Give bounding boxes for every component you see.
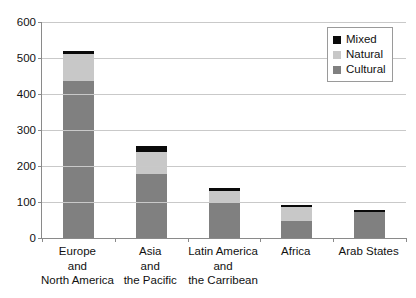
gridline [42,166,406,167]
y-axis-tick [38,166,42,167]
bar-stack [209,188,240,238]
y-axis-tick-label: 300 [0,125,36,136]
category-label-line: the Carribean [168,273,278,288]
y-axis-tick [38,130,42,131]
bar-stack [63,51,94,238]
gridline [42,130,406,131]
x-axis-tick [188,238,189,242]
y-axis-tick [38,202,42,203]
y-axis-tick-label: 400 [0,89,36,100]
bar-segment-natural [281,207,312,221]
y-axis-tick [38,58,42,59]
stacked-bar-chart: 0100200300400500600 EuropeandNorth Ameri… [0,0,416,298]
bar-segment-cultural [63,81,94,238]
gridline [42,94,406,95]
y-axis-tick-label: 0 [0,233,36,244]
bar-segment-cultural [281,221,312,238]
x-axis-category-label: Arab States [314,244,416,259]
x-axis-tick [42,238,43,242]
bar-segment-cultural [209,203,240,238]
legend-label: Cultural [346,64,386,76]
bar-segment-cultural [354,212,385,238]
category-label-line: and [168,259,278,274]
gridline [42,202,406,203]
bar-stack [354,210,385,238]
x-axis-tick [260,238,261,242]
legend-label: Natural [346,49,383,61]
bar-stack [136,146,167,239]
gridline [42,22,406,23]
bar-segment-natural [136,152,167,174]
legend-swatch-icon [333,66,341,74]
legend-label: Mixed [346,34,377,46]
x-axis-tick [115,238,116,242]
chart-legend: MixedNaturalCultural [327,27,393,82]
bar-segment-cultural [136,174,167,238]
y-axis-tick [38,94,42,95]
y-axis-tick [38,238,42,239]
x-axis-labels: EuropeandNorth AmericaAsiaandthe Pacific… [41,244,406,296]
x-axis-tick [333,238,334,242]
category-label-line: Arab States [314,244,416,259]
y-axis-tick-label: 500 [0,53,36,64]
y-axis-tick [38,22,42,23]
legend-item-mixed[interactable]: Mixed [333,32,386,47]
y-axis-tick-label: 600 [0,17,36,28]
legend-swatch-icon [333,36,341,44]
legend-item-natural[interactable]: Natural [333,47,386,62]
y-axis-tick-label: 100 [0,197,36,208]
x-axis-tick [406,238,407,242]
legend-swatch-icon [333,51,341,59]
bar-stack [281,205,312,238]
legend-item-cultural[interactable]: Cultural [333,62,386,77]
y-axis-tick-label: 200 [0,161,36,172]
